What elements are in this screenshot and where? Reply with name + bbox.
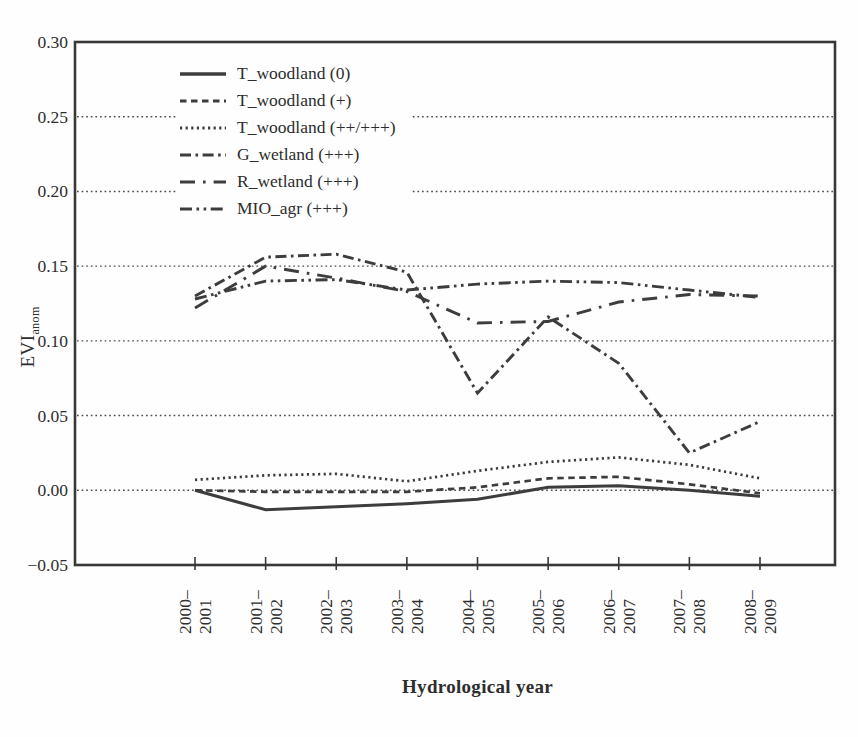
x-tick-label-2003-2004: 2003– 2004 xyxy=(387,590,426,634)
series-line-t-woodland-0 xyxy=(195,486,760,510)
legend-swatch-dashdot-line-icon xyxy=(180,151,226,159)
legend-label-mio-agr: MIO_agr (+++) xyxy=(237,198,348,219)
legend-label-t-woodland-0: T_woodland (0) xyxy=(237,63,350,84)
legend-item-r-wetland: R_wetland (+++) xyxy=(180,168,396,195)
y-tick-label-0.10: 0.10 xyxy=(12,331,68,351)
legend-swatch-longdashdot-line-icon xyxy=(180,178,226,186)
series-line-t-woodland xyxy=(195,457,760,481)
legend-item-t-woodland: T_woodland (++/+++) xyxy=(180,114,396,141)
legend-label-t-woodland: T_woodland (+) xyxy=(237,90,351,111)
y-tick-label-0.25: 0.25 xyxy=(12,107,68,127)
y-tick-label-0.15: 0.15 xyxy=(12,256,68,276)
legend-item-t-woodland-0: T_woodland (0) xyxy=(180,60,396,87)
x-tick-label-2001-2002: 2001– 2002 xyxy=(246,590,285,634)
x-tick-label-2005-2006: 2005– 2006 xyxy=(529,590,568,634)
series-line-r-wetland xyxy=(195,266,760,323)
legend-swatch-dashdotdot-line-icon xyxy=(180,205,226,213)
legend-swatch-dashed-line-icon xyxy=(180,97,226,105)
legend-item-mio-agr: MIO_agr (+++) xyxy=(180,195,396,222)
legend-swatch-dotted-line-icon xyxy=(180,124,226,132)
series-line-mio-agr xyxy=(195,280,760,299)
legend-label-g-wetland: G_wetland (+++) xyxy=(237,144,359,165)
y-tick-label-neg-0.05: −0.05 xyxy=(12,555,68,575)
x-tick-label-2004-2005: 2004– 2005 xyxy=(458,590,497,634)
legend-label-t-woodland: T_woodland (++/+++) xyxy=(237,117,396,138)
x-tick-label-2007-2008: 2007– 2008 xyxy=(670,590,709,634)
chart-plot-area xyxy=(0,0,858,737)
x-tick-label-2002-2003: 2002– 2003 xyxy=(317,590,356,634)
y-tick-label-0.20: 0.20 xyxy=(12,181,68,201)
y-tick-label-0.00: 0.00 xyxy=(12,480,68,500)
x-tick-label-2006-2007: 2006– 2007 xyxy=(599,590,638,634)
x-tick-label-2000-2001: 2000– 2001 xyxy=(176,590,215,634)
legend-label-r-wetland: R_wetland (+++) xyxy=(237,171,358,192)
legend-swatch-solid-line-icon xyxy=(180,70,226,78)
legend-item-g-wetland: G_wetland (+++) xyxy=(180,141,396,168)
y-tick-label-0.30: 0.30 xyxy=(12,32,68,52)
legend-item-t-woodland: T_woodland (+) xyxy=(180,87,396,114)
evi-anomaly-line-chart: EVIanom 0.300.250.200.150.100.050.00−0.0… xyxy=(0,0,858,737)
chart-legend: T_woodland (0)T_woodland (+)T_woodland (… xyxy=(176,56,410,226)
x-tick-label-2008-2009: 2008– 2009 xyxy=(741,590,780,634)
y-tick-label-0.05: 0.05 xyxy=(12,406,68,426)
x-axis-title: Hydrological year xyxy=(195,676,760,698)
